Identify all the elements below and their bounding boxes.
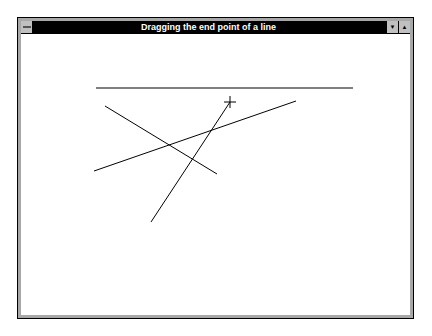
line-1[interactable] bbox=[105, 106, 217, 174]
crosshair-cursor-icon bbox=[224, 96, 236, 108]
lines-layer bbox=[0, 0, 432, 336]
line-3[interactable] bbox=[151, 102, 230, 222]
